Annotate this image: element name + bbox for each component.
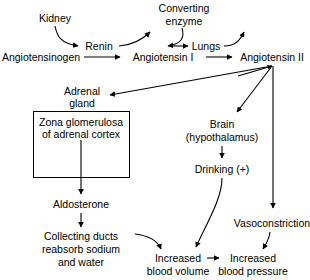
edge-renin-to-converting-enzyme: [119, 32, 150, 46]
node-adrenal-gland-line1: Adrenal: [64, 85, 100, 97]
edge-angiotensin-ii-to-brain: [237, 66, 272, 112]
node-drinking: Drinking (+): [195, 163, 250, 175]
edge-drinking-to-increased-blood-volume: [196, 178, 222, 247]
node-collecting-ducts-line3: and water: [58, 256, 104, 268]
node-brain-line1: Brain: [210, 118, 235, 130]
edge-converting-enzyme-to-angiotensin-i: [168, 28, 183, 46]
node-angiotensin-ii: Angiotensin II: [240, 51, 304, 63]
node-angiotensinogen: Angiotensinogen: [2, 51, 80, 63]
edge-vasoconstriction-to-increased-blood-pressure: [263, 232, 270, 249]
zona-box-line1: Zona glomerulosa: [39, 116, 123, 129]
edge-angiotensin-ii-to-lungs: [224, 32, 244, 46]
node-converting-enzyme-line1: Converting: [159, 2, 210, 14]
node-increased-blood-volume-line1: Increased: [155, 252, 201, 264]
node-brain-line2: (hypothalamus): [186, 131, 258, 143]
node-converting-enzyme-line2: enzyme: [166, 15, 203, 27]
node-adrenal-gland-line2: gland: [69, 97, 95, 109]
renin-angiotensin-diagram: Kidney Renin Converting enzyme Angiotens…: [0, 0, 310, 280]
node-kidney: Kidney: [39, 12, 71, 24]
node-renin: Renin: [85, 40, 112, 52]
node-aldosterone: Aldosterone: [53, 198, 109, 210]
node-vasoconstriction: Vasoconstriction: [234, 217, 310, 229]
node-collecting-ducts-line1: Collecting ducts: [44, 230, 118, 242]
zona-box-line2: of adrenal cortex: [42, 128, 120, 141]
node-increased-blood-pressure-line1: Increased: [230, 252, 276, 264]
edge-collecting-ducts-to-increased-blood-volume: [135, 234, 161, 249]
node-angiotensin-i: Angiotensin I: [133, 51, 194, 63]
node-increased-blood-pressure-line2: blood pressure: [218, 265, 287, 277]
node-lungs: Lungs: [192, 40, 221, 52]
node-increased-blood-volume-line2: blood volume: [147, 265, 209, 277]
node-collecting-ducts-line2: reabsorb sodium: [42, 243, 120, 255]
edge-kidney-to-renin: [55, 26, 78, 46]
edge-angiotensin-ii-to-adrenal-gland: [110, 66, 272, 95]
